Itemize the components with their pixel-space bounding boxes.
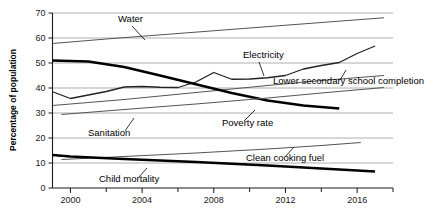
series-line-water: [53, 18, 385, 44]
x-tick-label-2004: 2004: [132, 195, 152, 205]
electricity-label-leader: [259, 62, 264, 76]
x-axis-ticks: 20002004200820122016: [60, 188, 393, 205]
y-tick-label-30: 30: [35, 108, 45, 118]
x-tick-label-2012: 2012: [275, 195, 295, 205]
line-chart: 010203040506070 20002004200820122016 Wat…: [0, 0, 438, 219]
y-tick-label-60: 60: [35, 33, 45, 43]
y-axis-title: Percentage of population: [8, 49, 18, 151]
x-tick-label-2016: 2016: [347, 195, 367, 205]
water-label: Water: [118, 13, 143, 24]
x-tick-label-2000: 2000: [60, 195, 80, 205]
series-lines: [53, 18, 385, 172]
sanitation-label: Sanitation: [88, 127, 130, 138]
chart-figure: 010203040506070 20002004200820122016 Wat…: [0, 0, 438, 219]
gridlines: [53, 13, 394, 163]
y-axis-ticks: 010203040506070: [35, 8, 52, 193]
lower-secondary-label: Lower secondary school completion: [273, 75, 424, 86]
y-tick-label-70: 70: [35, 8, 45, 18]
child-mortality-label: Child mortality: [99, 173, 159, 184]
clean-cooking-fuel-label: Clean cooking fuel: [246, 152, 324, 163]
x-tick-label-2008: 2008: [204, 195, 224, 205]
y-tick-label-10: 10: [35, 158, 45, 168]
electricity-label: Electricity: [243, 49, 284, 60]
poverty-rate-label: Poverty rate: [222, 117, 273, 128]
y-tick-label-50: 50: [35, 58, 45, 68]
y-tick-label-40: 40: [35, 83, 45, 93]
y-tick-label-0: 0: [40, 183, 45, 193]
y-tick-label-20: 20: [35, 133, 45, 143]
